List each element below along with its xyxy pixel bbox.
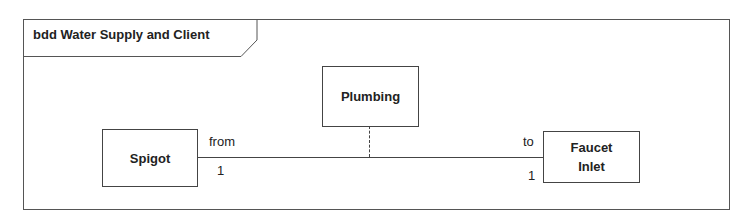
block-plumbing[interactable]: Plumbing [322,66,419,127]
block-spigot[interactable]: Spigot [102,129,198,187]
to-multiplicity-label: 1 [528,168,535,183]
block-spigot-label: Spigot [130,149,170,168]
block-faucet-inlet-label-2: Inlet [578,157,605,176]
block-faucet-inlet-label-1: Faucet [571,138,613,157]
from-multiplicity-label: 1 [217,163,224,178]
frame-title: bdd Water Supply and Client [33,27,209,42]
block-faucet-inlet[interactable]: Faucet Inlet [543,131,640,183]
block-plumbing-label: Plumbing [341,87,400,106]
from-role-label: from [209,134,235,149]
association-class-connector [369,126,370,157]
association-line[interactable] [197,157,543,158]
to-role-label: to [523,134,534,149]
